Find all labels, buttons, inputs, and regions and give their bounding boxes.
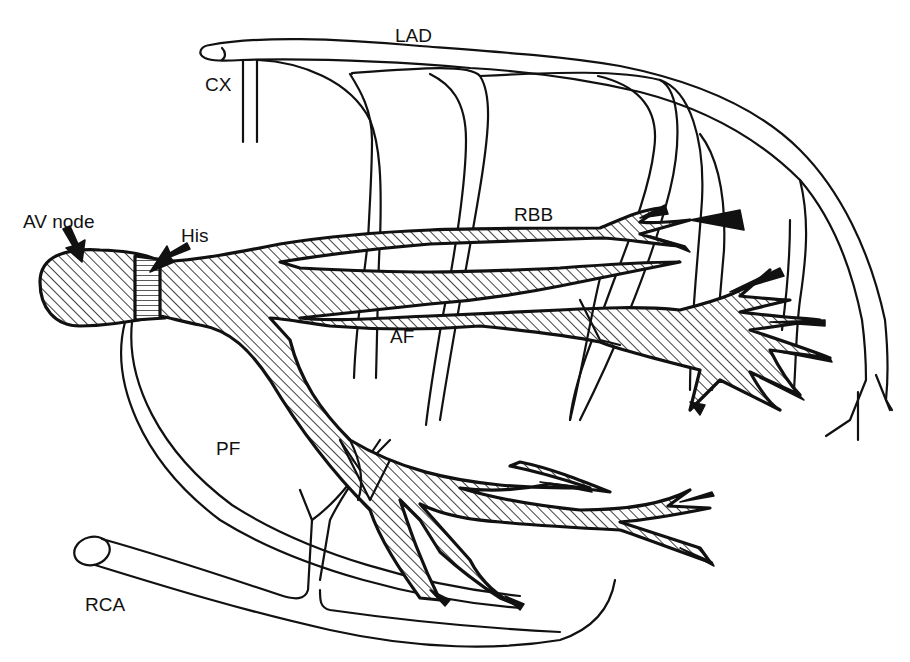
conduction-system-diagram: LAD CX AV node His RBB AF PF RCA xyxy=(0,0,910,662)
label-lad: LAD xyxy=(395,25,432,46)
label-pf: PF xyxy=(216,438,240,459)
label-his: His xyxy=(181,225,208,246)
conduction-system xyxy=(40,205,832,610)
label-af: AF xyxy=(390,326,414,347)
label-av-node: AV node xyxy=(23,211,94,232)
label-rbb: RBB xyxy=(514,204,553,225)
left-bundle-branch xyxy=(160,208,830,606)
label-rca: RCA xyxy=(85,594,125,615)
rca-artery xyxy=(71,322,615,647)
label-cx: CX xyxy=(205,74,232,95)
